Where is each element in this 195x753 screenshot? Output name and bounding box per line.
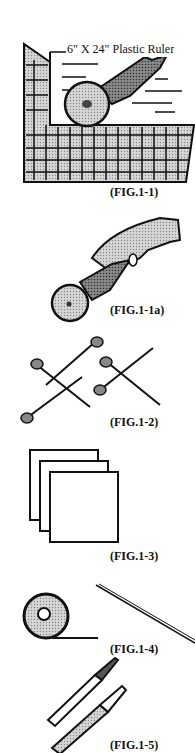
figure-caption: (FIG.1-1a) — [110, 303, 164, 318]
hand-rotary-cutter-illustration — [0, 200, 195, 325]
figure-caption: (FIG.1-2) — [110, 415, 158, 430]
figure-1-1a: (FIG.1-1a) — [0, 200, 195, 325]
figure-1-3: (FIG.1-3) — [0, 445, 195, 565]
marking-pens-illustration — [0, 650, 195, 753]
ruler-label: 6" X 24" Plastic Ruler — [66, 42, 175, 57]
cutting-mat-ruler-cutter-illustration — [0, 0, 195, 200]
figure-1-2: (FIG.1-2) — [0, 330, 195, 430]
figure-caption: (FIG.1-1) — [110, 185, 158, 200]
figure-caption: (FIG.1-5) — [110, 738, 158, 753]
figure-caption: (FIG.1-3) — [110, 549, 158, 564]
figure-1-1: 6" X 24" Plastic Ruler (FIG.1-1) — [0, 0, 195, 200]
stacked-papers-illustration — [0, 445, 195, 565]
pins-illustration — [0, 330, 195, 430]
tape-and-thread-illustration — [0, 570, 195, 650]
figure-1-4: (FIG.1-4) — [0, 570, 195, 650]
figure-1-5: (FIG.1-5) — [0, 650, 195, 753]
